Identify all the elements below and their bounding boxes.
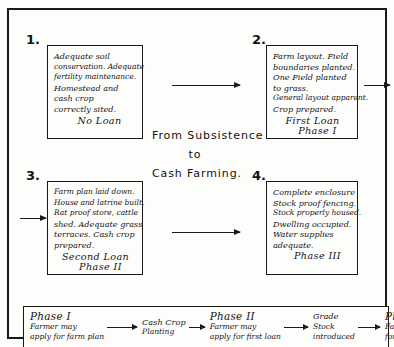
stage-2-line-4: to grass. <box>273 83 352 94</box>
stage-4-line-5: Water supplies <box>273 229 352 240</box>
stage-4-line-1: Complete enclosure <box>273 187 352 198</box>
timeline-arrow-2 <box>189 327 205 328</box>
stage-2-line-3: One Field planted <box>273 72 352 83</box>
title-line-1: From Subsistence <box>152 126 264 145</box>
stage-3-phase: Phase II <box>54 262 137 273</box>
timeline-node-grade-stock: Grade Stock introduced <box>312 311 356 342</box>
stage-3-line-2: House and latrine built. <box>54 198 137 209</box>
stage-box-1: Adequate soil conservation. Adequate fer… <box>47 45 143 139</box>
stage-1-line-3: fertility maintenance. <box>54 72 137 83</box>
arrow-stage2-outgoing <box>364 85 390 86</box>
timeline-node-5-head: Phase III <box>385 311 394 321</box>
stage-2-line-5: General layout apparent. <box>273 93 352 104</box>
stage-1-line-6: correctly sited. <box>54 104 137 115</box>
stage-3-line-4: shed. Adequate grass <box>54 219 137 230</box>
title-line-3: Cash Farming. <box>152 164 264 183</box>
arrow-stage1-to-stage2 <box>172 85 240 86</box>
stage-3-line-1: Farm plan laid down. <box>54 187 137 198</box>
stage-4-line-3: Stock properly housed. <box>273 208 352 219</box>
timeline-arrow-3 <box>284 327 308 328</box>
stage-4-line-4: Dwelling occupied. <box>273 219 352 230</box>
stage-2-line-2: boundaries planted. <box>273 62 352 73</box>
timeline-node-2-head: Cash Crop <box>142 317 186 327</box>
timeline-node-3-sub-2: apply for first loan <box>210 332 281 342</box>
stage-1-line-5: cash crop <box>54 93 137 104</box>
arrow-stage3-incoming <box>20 218 46 219</box>
timeline-node-1-sub-2: apply for farm plan <box>30 332 104 342</box>
arrow-stage3-to-stage4 <box>172 232 240 233</box>
timeline-node-phase-2: Phase II Farmer may apply for first loan <box>209 311 282 342</box>
stage-number-1: 1. <box>26 32 40 47</box>
stage-2-line-6: Crop prepared. <box>273 104 352 115</box>
timeline-node-3-sub-1: Farmer may <box>210 322 281 332</box>
timeline-node-cash-crop-planting: Cash Crop Planting <box>141 317 187 338</box>
timeline-arrow-4 <box>358 327 380 328</box>
stage-3-line-3: Rat proof store, cattle <box>54 208 137 219</box>
timeline-node-3-head: Phase II <box>210 311 281 321</box>
stage-1-line-4: Homestead and <box>54 83 137 94</box>
stage-2-line-1: Farm layout. Field <box>273 51 352 62</box>
diagram-outer-frame: 1. 2. 3. 4. Adequate soil conservation. … <box>7 8 387 339</box>
stage-1-line-1: Adequate soil <box>54 51 137 62</box>
stage-1-line-2: conservation. Adequate <box>54 62 137 73</box>
stage-4-line-2: Stock proof fencing. <box>273 198 352 209</box>
phase-timeline-strip: Phase I Farmer may apply for farm plan C… <box>23 306 389 347</box>
stage-box-3: Farm plan laid down. House and latrine b… <box>47 181 143 275</box>
stage-1-loan-status: No Loan <box>54 116 137 127</box>
stage-box-2: Farm layout. Field boundaries planted. O… <box>266 45 358 139</box>
stage-4-line-6: adequate. <box>273 240 352 251</box>
timeline-node-phase-1: Phase I Farmer may apply for farm plan <box>29 311 105 342</box>
stage-box-4: Complete enclosure Stock proof fencing. … <box>266 181 358 275</box>
timeline-arrow-1 <box>107 327 137 328</box>
timeline-node-phase-3: Phase III Farmer may apply for second lo… <box>384 311 394 342</box>
stage-2-phase: Phase I <box>273 126 352 137</box>
timeline-node-1-sub-1: Farmer may <box>30 322 104 332</box>
timeline-node-1-head: Phase I <box>30 311 104 321</box>
stage-number-3: 3. <box>26 168 40 183</box>
timeline-node-4-sub-1: Stock <box>313 322 355 332</box>
diagram-root: 1. 2. 3. 4. Adequate soil conservation. … <box>0 0 394 347</box>
title-line-2: to <box>152 145 264 164</box>
timeline-node-2-sub-1: Planting <box>142 327 186 337</box>
diagram-title: From Subsistence to Cash Farming. <box>152 126 264 183</box>
stage-number-2: 2. <box>252 32 266 47</box>
timeline-node-5-sub-1: Farmer may apply <box>385 322 394 332</box>
timeline-node-4-sub-2: introduced <box>313 332 355 342</box>
stage-4-phase: Phase III <box>273 251 352 262</box>
stage-3-line-6: prepared. <box>54 240 137 251</box>
timeline-node-5-sub-2: for second loan <box>385 332 394 342</box>
stage-3-line-5: terraces. Cash crop <box>54 229 137 240</box>
timeline-node-4-head: Grade <box>313 311 355 321</box>
